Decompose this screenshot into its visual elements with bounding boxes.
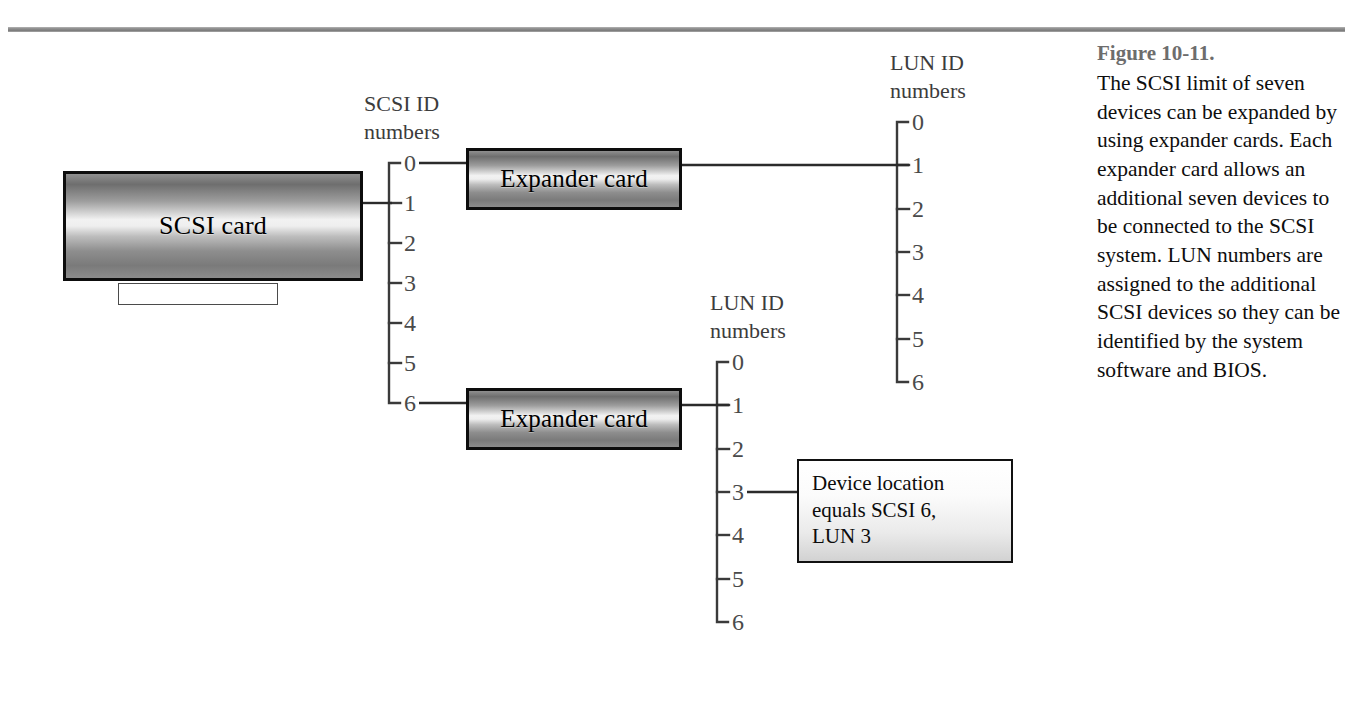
lun-id-bottom-tick-5: 5 <box>732 567 744 591</box>
device-box-line-3: LUN 3 <box>812 523 1011 550</box>
expander-card-bottom-label: Expander card <box>500 405 648 433</box>
device-box-line-1: Device location <box>812 470 1011 497</box>
scsi-id-tick-3: 3 <box>404 271 416 295</box>
scsi-id-tick-4: 4 <box>404 311 416 335</box>
lun-id-bottom-tick-4: 4 <box>732 523 744 547</box>
lun-id-bottom-tick-0: 0 <box>732 350 744 374</box>
scsi-id-scale-title: SCSI IDnumbers <box>364 90 440 146</box>
lun-id-top-tick-4: 4 <box>912 283 924 307</box>
scsi-id-tick-2: 2 <box>404 231 416 255</box>
scsi-id-tick-0: 0 <box>404 151 416 175</box>
figure-caption-text: The SCSI limit of seven devices can be e… <box>1097 69 1349 385</box>
lun-id-top-scale-title: LUN IDnumbers <box>890 49 966 105</box>
scsi-id-tick-1: 1 <box>404 191 416 215</box>
lun-id-top-tick-2: 2 <box>912 197 924 221</box>
lun-id-top-tick-1: 1 <box>912 153 924 177</box>
scsi-card: SCSI card <box>63 171 363 281</box>
scsi-card-bracket <box>118 283 278 305</box>
expander-card-bottom: Expander card <box>466 388 682 450</box>
expander-card-top: Expander card <box>466 148 682 210</box>
scsi-id-tick-5: 5 <box>404 351 416 375</box>
lun-id-bottom-title-line1: LUN ID <box>710 290 784 315</box>
lun-id-top-tick-0: 0 <box>912 110 924 134</box>
figure-caption: Figure 10-11. The SCSI limit of seven de… <box>1097 40 1349 384</box>
scsi-id-title-line2: numbers <box>364 119 440 144</box>
device-box-line-2: equals SCSI 6, <box>812 497 1011 524</box>
figure-number: Figure 10-11. <box>1097 40 1349 68</box>
device-location-box: Device location equals SCSI 6, LUN 3 <box>797 459 1013 563</box>
lun-id-top-tick-6: 6 <box>912 370 924 394</box>
lun-id-bottom-tick-2: 2 <box>732 437 744 461</box>
lun-id-bottom-tick-3: 3 <box>732 480 744 504</box>
lun-id-top-tick-3: 3 <box>912 240 924 264</box>
lun-id-bottom-tick-6: 6 <box>732 610 744 634</box>
lun-id-bottom-scale-title: LUN IDnumbers <box>710 289 786 345</box>
lun-id-top-title-line1: LUN ID <box>890 50 964 75</box>
lun-id-top-tick-5: 5 <box>912 327 924 351</box>
lun-id-top-title-line2: numbers <box>890 78 966 103</box>
scsi-id-title-line1: SCSI ID <box>364 91 439 116</box>
expander-card-top-label: Expander card <box>500 165 648 193</box>
lun-id-bottom-title-line2: numbers <box>710 318 786 343</box>
lun-id-bottom-tick-1: 1 <box>732 393 744 417</box>
scsi-id-tick-6: 6 <box>404 391 416 415</box>
figure-page: SCSI card Expander card Expander card SC… <box>0 0 1352 703</box>
scsi-card-label: SCSI card <box>159 211 267 241</box>
